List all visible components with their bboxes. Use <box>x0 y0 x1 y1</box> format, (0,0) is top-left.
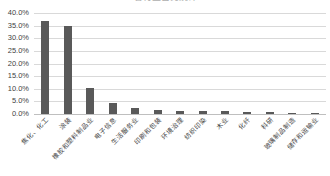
y-axis-labels: 40.0%35.0%30.0%25.0%20.0%15.0%10.0%5.0%0… <box>0 13 32 114</box>
bar-cell <box>101 13 123 114</box>
bar-cell <box>214 13 236 114</box>
x-axis-tick-label: 焦化、化工 <box>20 116 50 146</box>
bar <box>266 112 274 114</box>
bar <box>221 111 229 114</box>
bar <box>41 21 49 114</box>
y-axis-tick-label: 20.0% <box>8 60 29 68</box>
bar-cell <box>34 13 56 114</box>
x-label-cell: 纺织印染 <box>191 115 213 176</box>
x-axis-tick-label: 木业 <box>215 116 230 131</box>
bar-cell <box>56 13 78 114</box>
x-label-cell: 橡胶和塑料制品业 <box>79 115 101 176</box>
bar-cell <box>169 13 191 114</box>
x-label-cell: 化纤 <box>236 115 258 176</box>
x-axis-labels: 焦化、化工涂装橡胶和塑料制品业电子信息生活服务业印刷和包装环境治理纺织印染木业化… <box>34 115 326 176</box>
y-axis-tick-label: 30.0% <box>8 35 29 43</box>
x-label-cell: 储存和运输业 <box>304 115 326 176</box>
x-axis-tick-label: 化纤 <box>238 116 253 131</box>
bar-cell <box>259 13 281 114</box>
bar <box>131 108 139 114</box>
bar <box>199 111 207 114</box>
bar <box>176 111 184 114</box>
bar-cell <box>146 13 168 114</box>
bar <box>311 113 319 114</box>
y-axis-tick-label: 35.0% <box>8 22 29 30</box>
y-axis-tick-label: 0.0% <box>12 110 29 118</box>
x-axis-tick-label: 科研 <box>260 116 275 131</box>
bar-cell <box>236 13 258 114</box>
bar <box>64 26 72 114</box>
bar-cell <box>304 13 326 114</box>
y-axis-tick-label: 5.0% <box>12 98 29 106</box>
y-axis-tick-label: 25.0% <box>8 47 29 55</box>
y-axis-tick-label: 10.0% <box>8 85 29 93</box>
x-label-cell: 印刷和包装 <box>146 115 168 176</box>
bar <box>243 112 251 114</box>
bar-cell <box>124 13 146 114</box>
x-label-cell: 生活服务业 <box>124 115 146 176</box>
bar <box>288 113 296 114</box>
bar <box>109 103 117 114</box>
x-label-cell: 电子信息 <box>101 115 123 176</box>
x-label-cell: 焦化、化工 <box>34 115 56 176</box>
plot-area <box>34 13 326 114</box>
bar-chart: 各行业占比统计 40.0%35.0%30.0%25.0%20.0%15.0%10… <box>0 0 330 176</box>
bar-cell <box>191 13 213 114</box>
bar-series <box>34 13 326 114</box>
x-label-cell: 环境治理 <box>169 115 191 176</box>
y-axis-tick-label: 15.0% <box>8 72 29 80</box>
bar-cell <box>79 13 101 114</box>
y-axis-tick-label: 40.0% <box>8 9 29 17</box>
bar <box>86 88 94 115</box>
bar <box>154 110 162 114</box>
x-axis-tick-label: 涂装 <box>58 116 73 131</box>
chart-title: 各行业占比统计 <box>0 0 330 1</box>
x-label-cell: 木业 <box>214 115 236 176</box>
bar-cell <box>281 13 303 114</box>
